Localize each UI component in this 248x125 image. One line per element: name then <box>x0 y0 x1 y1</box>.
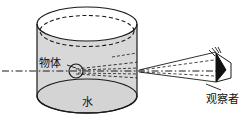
figure-canvas: 物体 水 观察者 <box>0 0 248 125</box>
observer-leader-line <box>206 84 221 90</box>
label-observer: 观察者 <box>206 92 239 106</box>
eye-pupil-shape <box>216 53 226 82</box>
physics-refraction-figure: 物体 水 观察者 <box>0 0 248 125</box>
ray-outer-lower-solid <box>139 72 216 82</box>
ray-outer-upper-solid <box>139 52 216 70</box>
label-object: 物体 <box>39 56 61 70</box>
cylinder-top-rim <box>37 7 137 41</box>
observer-eye <box>209 47 231 82</box>
label-water: 水 <box>82 96 93 109</box>
ray-virtual-upper-dashed <box>141 60 214 70</box>
